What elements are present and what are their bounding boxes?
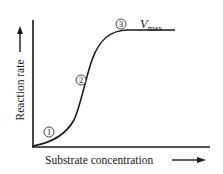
marker-1-label: 1 xyxy=(47,127,51,137)
marker-3: 3 xyxy=(116,19,126,29)
vmax-label: Vmax xyxy=(140,17,163,33)
marker-3-label: 3 xyxy=(119,19,123,29)
marker-1: 1 xyxy=(44,127,54,137)
enzyme-kinetics-diagram: 1 2 3 Vmax Reaction rate Substrate conce… xyxy=(0,0,223,174)
vmax-subscript: max xyxy=(148,23,163,33)
marker-2: 2 xyxy=(76,75,86,85)
reaction-rate-curve xyxy=(33,30,175,146)
y-axis-arrow-icon xyxy=(17,26,23,52)
y-axis-label: Reaction rate xyxy=(14,60,26,121)
marker-2-label: 2 xyxy=(79,75,83,85)
x-axis-label: Substrate concentration xyxy=(45,154,154,166)
x-axis-arrow-icon xyxy=(172,157,206,163)
